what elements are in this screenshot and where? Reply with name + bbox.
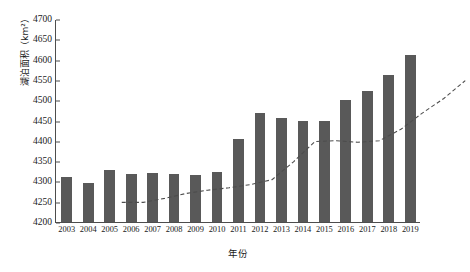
y-tick-label: 4400 xyxy=(33,137,56,147)
y-tick-mark xyxy=(56,182,60,183)
y-tick-mark xyxy=(56,202,60,203)
y-tick-mark xyxy=(56,121,60,122)
bar xyxy=(147,173,158,222)
x-tick-label: 2018 xyxy=(380,226,397,234)
x-tick-label: 2017 xyxy=(359,226,376,234)
x-tick-label: 2013 xyxy=(273,226,290,234)
bar xyxy=(340,100,351,222)
x-tick-label: 2010 xyxy=(209,226,226,234)
y-tick-mark xyxy=(56,80,60,81)
x-tick-label: 2007 xyxy=(144,226,161,234)
x-tick-label: 2015 xyxy=(316,226,333,234)
x-axis-title: 年份 xyxy=(55,246,420,260)
y-tick-label: 4300 xyxy=(33,178,56,188)
bar xyxy=(212,172,223,222)
y-tick-label: 4600 xyxy=(33,56,56,66)
x-tick-label: 2011 xyxy=(230,226,246,234)
y-tick-mark xyxy=(56,223,60,224)
y-tick-label: 4550 xyxy=(33,76,56,86)
y-tick-label: 4500 xyxy=(33,96,56,106)
bar xyxy=(233,139,244,222)
y-axis-title-container: 湖泊面积（km²） xyxy=(0,0,26,244)
x-tick-label: 2009 xyxy=(187,226,204,234)
x-tick-label: 2008 xyxy=(166,226,183,234)
bar xyxy=(255,113,266,222)
x-tick-label: 2014 xyxy=(295,226,312,234)
bar xyxy=(362,91,373,222)
y-tick-mark xyxy=(56,162,60,163)
x-tick-label: 2005 xyxy=(101,226,118,234)
trend-line xyxy=(111,40,470,243)
x-tick-label: 2019 xyxy=(402,226,419,234)
x-tick-label: 2012 xyxy=(252,226,269,234)
x-tick-label: 2003 xyxy=(58,226,75,234)
y-tick-mark xyxy=(56,60,60,61)
bar xyxy=(276,118,287,222)
y-tick-label: 4450 xyxy=(33,117,56,127)
y-tick-mark xyxy=(56,141,60,142)
bar xyxy=(383,75,394,222)
bar xyxy=(298,121,309,223)
bar xyxy=(169,174,180,222)
y-tick-label: 4200 xyxy=(33,218,56,228)
y-tick-label: 4350 xyxy=(33,157,56,167)
bar xyxy=(61,177,72,222)
x-tick-label: 2016 xyxy=(337,226,354,234)
bar xyxy=(405,55,416,222)
y-tick-mark xyxy=(56,101,60,102)
bar xyxy=(319,121,330,222)
y-axis-title: 湖泊面积（km²） xyxy=(18,0,34,120)
y-tick-label: 4250 xyxy=(33,198,56,208)
plot-area: 4200425043004350440044504500455046004650… xyxy=(55,20,420,223)
bar xyxy=(104,170,115,222)
y-tick-mark xyxy=(56,40,60,41)
bar xyxy=(190,175,201,222)
bar xyxy=(83,183,94,222)
x-tick-label: 2006 xyxy=(123,226,140,234)
bar xyxy=(126,174,137,222)
y-tick-mark xyxy=(56,20,60,21)
x-tick-label: 2004 xyxy=(80,226,97,234)
y-tick-label: 4650 xyxy=(33,36,56,46)
y-tick-label: 4700 xyxy=(33,15,56,25)
